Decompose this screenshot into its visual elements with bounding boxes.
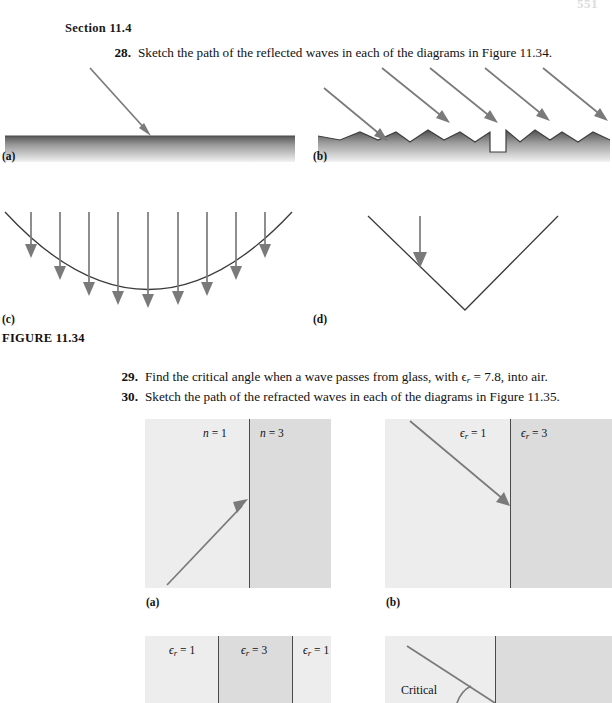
figure-1134-label-d: (d) — [313, 313, 327, 325]
problem-29-text-after: = 7.8, into air. — [470, 369, 547, 384]
problem-30-number: 30. — [112, 389, 138, 405]
section-heading: Section 11.4 — [65, 21, 132, 36]
media-subscript-right: r — [308, 648, 312, 658]
interface-divider-1 — [218, 636, 219, 703]
figure-1135-label-b: (b) — [386, 596, 400, 608]
panel-b-ray-layer — [385, 419, 612, 588]
panel-a-ray-layer — [145, 419, 331, 588]
incident-ray-2 — [382, 68, 444, 118]
incident-ray-7-arrowhead — [201, 282, 213, 296]
media-label-left: ϵr = 1 — [169, 644, 195, 658]
media-value-right: 1 — [323, 644, 329, 656]
incident-ray — [167, 506, 242, 585]
incident-ray-6-arrowhead — [172, 291, 184, 305]
figure-1134-panel-c — [0, 192, 305, 314]
incident-ray-5-arrowhead — [594, 108, 608, 121]
incident-ray-3 — [430, 68, 492, 118]
incident-ray-9-arrowhead — [259, 244, 271, 258]
figure-1134-panel-b — [310, 70, 612, 150]
textbook-page: 551 Section 11.4 28.Sketch the path of t… — [0, 0, 612, 703]
incident-ray-1 — [324, 88, 382, 136]
figure-1135-panel-a: n = 1 n = 3 — [145, 419, 331, 588]
problem-30: 30.Sketch the path of the refracted wave… — [112, 389, 560, 405]
incident-ray-3-arrowhead — [484, 110, 498, 123]
problem-30-text: Sketch the path of the refracted waves i… — [145, 389, 560, 404]
incident-ray-8-arrowhead — [230, 266, 242, 280]
figure-1134-panel-d — [310, 192, 612, 314]
figure-1135-panel-d: Critical — [385, 636, 612, 703]
problem-28: 28.Sketch the path of the reflected wave… — [105, 45, 552, 61]
media-subscript-middle: r — [246, 648, 250, 658]
problem-28-text: Sketch the path of the reflected waves i… — [138, 45, 552, 60]
flat-surface — [5, 136, 295, 162]
figure-1135-label-a: (a) — [146, 596, 159, 608]
incident-ray-group — [25, 212, 271, 308]
incident-ray-1-arrowhead — [25, 244, 37, 258]
problem-28-number: 28. — [105, 45, 131, 61]
media-label-middle: ϵr = 3 — [241, 644, 267, 658]
figure-1134-label-c: (c) — [2, 313, 15, 325]
page-number: 551 — [577, 0, 598, 12]
media-value-middle: 3 — [261, 644, 267, 656]
incident-ray — [90, 68, 146, 130]
incident-ray-4 — [485, 68, 544, 116]
incident-ray-2-arrowhead — [54, 266, 66, 280]
incident-ray-arrowhead — [413, 252, 427, 268]
incident-ray-2-arrowhead — [436, 110, 450, 123]
incident-ray-arrowhead — [233, 499, 248, 513]
incident-ray-4-arrowhead — [536, 108, 550, 121]
figure-1135-panel-b: ϵr = 1 ϵr = 3 — [385, 419, 612, 588]
critical-angle-label: Critical — [401, 683, 437, 698]
incident-ray — [410, 421, 503, 499]
figure-1134-caption: FIGURE 11.34 — [2, 331, 85, 346]
interface-divider-2 — [292, 636, 293, 703]
figure-1134-panel-a — [0, 70, 305, 150]
incident-ray-4-arrowhead — [112, 291, 124, 305]
incident-ray-5 — [543, 68, 602, 116]
figure-1134-label-b: (b) — [313, 150, 327, 162]
incident-ray-5-arrowhead — [142, 294, 154, 308]
incident-ray-group — [324, 68, 608, 141]
media-subscript-left: r — [174, 648, 178, 658]
figure-1134-label-a: (a) — [2, 150, 15, 162]
critical-angle-marker — [457, 686, 471, 703]
media-label-right: ϵr = 1 — [303, 644, 329, 658]
media-value-left: 1 — [189, 644, 195, 656]
problem-29-text-before: Find the critical angle when a wave pass… — [145, 369, 461, 384]
figure-1135-panel-c: ϵr = 1 ϵr = 3 ϵr = 1 — [145, 636, 331, 703]
incident-ray-3-arrowhead — [83, 282, 95, 296]
v-reflector-surface — [368, 216, 558, 310]
problem-29-number: 29. — [112, 369, 138, 385]
problem-29: 29.Find the critical angle when a wave p… — [112, 369, 548, 385]
